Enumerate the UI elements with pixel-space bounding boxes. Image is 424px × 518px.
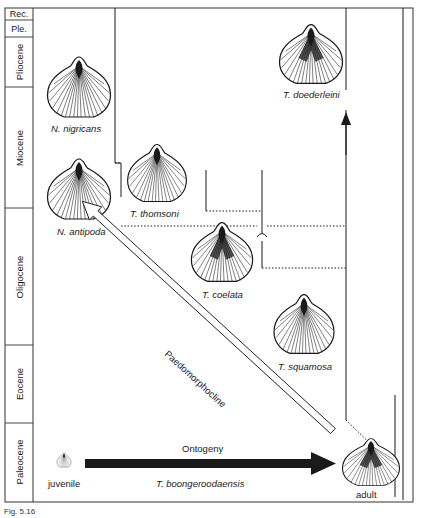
shell-t-coelata	[191, 223, 252, 282]
epoch-label-pliocene: Pliocene	[14, 44, 25, 80]
label-ontogeny: Ontogeny	[182, 443, 223, 454]
shell-n-nigricans	[48, 57, 111, 117]
shell-juvenile	[57, 453, 71, 467]
shell-adult	[343, 439, 400, 486]
species-label-t-doederleini: T. doederleini	[283, 89, 340, 100]
epoch-label-eocene: Eocene	[14, 368, 25, 400]
species-label-t-coelata: T. coelata	[202, 289, 243, 300]
shell-n-antipoda	[48, 159, 111, 219]
figure-caption: Fig. 5.16	[4, 507, 35, 516]
shell-t-doederleini	[280, 25, 343, 84]
label-juvenile: juvenile	[48, 478, 80, 489]
shell-t-thomsoni	[128, 145, 187, 202]
lineage-lines	[115, 8, 403, 500]
species-label-t-squamosa: T. squamosa	[278, 361, 332, 372]
species-label-n-antipoda: N. antipoda	[57, 226, 106, 237]
phylogeny-diagram	[0, 0, 424, 518]
epoch-label-recent: Rec.	[10, 9, 29, 19]
epoch-label-oligocene: Oligocene	[14, 256, 25, 299]
species-label-t-thomsoni: T. thomsoni	[130, 208, 179, 219]
species-label-n-nigricans: N. nigricans	[51, 123, 101, 134]
shell-t-squamosa	[274, 295, 334, 354]
ontogeny-arrow	[85, 452, 336, 475]
epoch-label-paleocene: Paleocene	[14, 440, 25, 485]
epoch-label-miocene: Miocene	[14, 130, 25, 166]
epoch-dividers	[5, 20, 33, 423]
epoch-label-pleistocene: Ple.	[11, 24, 27, 34]
species-label-t-boongeroodaensis: T. boongeroodaensis	[156, 478, 244, 489]
doederleini-arrow-head	[341, 112, 351, 125]
label-adult: adult	[356, 489, 377, 500]
